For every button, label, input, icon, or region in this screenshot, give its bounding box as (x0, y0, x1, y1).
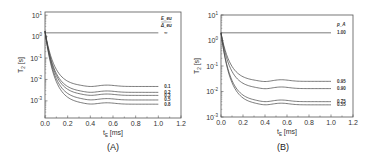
panel-label: (A) (107, 142, 119, 152)
series-curve-0.8 (45, 31, 158, 104)
series-label: 0.55 (337, 102, 346, 107)
series-label: ∞ (164, 30, 167, 35)
series-curve-0.1 (45, 31, 158, 86)
series-curve-0.55 (221, 33, 331, 105)
x-tick-label: 0.6 (282, 119, 292, 126)
y-axis-title: T2 [s] (193, 58, 202, 74)
y-tick-label: 100 (208, 36, 219, 44)
y-tick-label: 10-3 (30, 96, 42, 104)
series-curve-0.2 (45, 31, 158, 92)
x-tick-label: 1.2 (348, 119, 358, 126)
y-tick-label: 10-1 (30, 54, 42, 62)
series-label: 0.1 (164, 84, 171, 89)
series-curve-0.95 (221, 33, 331, 82)
x-tick-label: 0.6 (108, 120, 118, 127)
plot-frame (221, 15, 353, 117)
panel-label: (B) (277, 142, 289, 152)
series-label: 1.00 (337, 30, 346, 35)
series-curve-0.5 (45, 31, 158, 100)
x-axis-title: tE [ms] (103, 129, 123, 138)
legend-title-numerator: E_eu (161, 16, 172, 21)
x-axis-title: tE [ms] (277, 128, 297, 137)
series-label: 0.95 (337, 79, 346, 84)
figure: 0.00.20.40.60.81.01.210110010-110-210-3t… (0, 0, 376, 162)
x-tick-label: 1.0 (153, 120, 163, 127)
y-tick-label: 100 (32, 32, 43, 40)
chart-panel-a: 0.00.20.40.60.81.01.210110010-110-210-3t… (17, 11, 186, 152)
x-tick-label: 0.8 (304, 119, 314, 126)
x-tick-label: 0.4 (260, 119, 270, 126)
series-curve-0.75 (221, 33, 331, 102)
x-tick-label: 1.0 (326, 119, 336, 126)
y-axis-title: T2 [s] (17, 57, 26, 73)
y-tick-label: 101 (32, 11, 43, 19)
series-label: 0.8 (164, 102, 171, 107)
series-label: 0.90 (337, 86, 346, 91)
series-curve-0.3 (45, 31, 158, 95)
x-tick-label: 0.2 (238, 119, 248, 126)
legend-title: p_A (336, 22, 346, 27)
legend-title-denominator: Δ_eu (160, 23, 172, 28)
x-tick-label: 1.2 (176, 120, 186, 127)
x-tick-label: 0.0 (216, 119, 226, 126)
y-tick-label: 10-1 (206, 62, 218, 70)
x-tick-label: 0.0 (40, 120, 50, 127)
x-tick-label: 0.4 (85, 120, 95, 127)
y-tick-label: 10-2 (30, 75, 42, 83)
x-tick-label: 0.2 (63, 120, 73, 127)
chart-panel-b: 0.00.20.40.60.81.01.210110010-110-210-3t… (193, 11, 358, 153)
y-tick-label: 101 (208, 11, 219, 19)
y-tick-label: 10-2 (206, 87, 218, 95)
x-tick-label: 0.8 (131, 120, 141, 127)
